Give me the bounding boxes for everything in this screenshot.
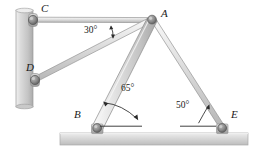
support-C-pin — [28, 15, 37, 24]
joint-A — [148, 15, 157, 24]
angle-label-50: 50° — [176, 101, 189, 111]
support-E — [217, 124, 229, 134]
support-E-pin-highlight — [219, 125, 222, 128]
support-B — [92, 124, 104, 134]
support-D — [30, 74, 39, 87]
truss-diagram-canvas — [0, 0, 257, 152]
member-AE — [150, 16, 225, 128]
point-label-A: A — [161, 8, 168, 19]
member-CA-body — [34, 17, 153, 22]
ground-strip — [60, 133, 248, 145]
truss-figure: C D A B E 30° 65° 50° — [0, 0, 257, 152]
support-B-pin — [93, 124, 102, 133]
member-AE-body — [150, 16, 225, 128]
angle-label-30: 30° — [84, 26, 97, 36]
support-C-pin-highlight — [30, 17, 33, 20]
support-E-pin — [218, 124, 227, 133]
point-label-E: E — [231, 109, 238, 120]
support-B-pin-highlight — [94, 125, 97, 128]
ground-body — [60, 133, 248, 145]
member-CA — [34, 17, 153, 22]
wall-bottom-cap — [16, 104, 33, 109]
support-D-pin — [30, 75, 39, 84]
point-label-C: C — [41, 3, 48, 14]
support-D-pin-highlight — [32, 77, 35, 80]
angle-label-65: 65° — [121, 84, 134, 94]
support-C — [28, 14, 37, 27]
point-label-D: D — [26, 62, 34, 73]
point-label-B: B — [74, 109, 81, 120]
joint-A-pin — [148, 15, 157, 24]
joint-A-pin-highlight — [149, 17, 152, 20]
angle-30-arrowhead-up — [109, 25, 113, 29]
angle-65-arrowhead-end — [134, 115, 139, 121]
wall-top-cap — [16, 8, 33, 13]
